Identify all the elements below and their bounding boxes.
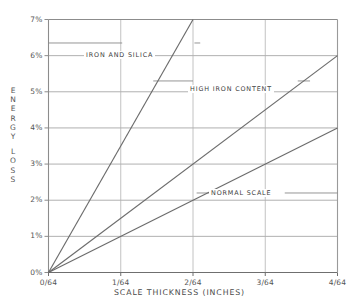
y-axis-tick-label: 2% <box>21 196 43 204</box>
x-axis-tick-label: 1/64 <box>101 279 141 287</box>
y-axis-tick-label: 4% <box>21 124 43 132</box>
series-label-normal-scale: NORMAL SCALE <box>209 189 273 197</box>
x-axis-tick-label: 2/64 <box>173 279 213 287</box>
y-axis-tick-label: 0% <box>21 269 43 277</box>
x-axis-tick-label: 0/64 <box>29 279 69 287</box>
plot-canvas <box>0 0 359 305</box>
x-axis-tick-label: 4/64 <box>318 279 358 287</box>
y-axis-tick-label: 6% <box>21 52 43 60</box>
y-axis-ticks <box>45 20 49 273</box>
x-axis-tick-label: 3/64 <box>245 279 285 287</box>
x-axis-title: SCALE THICKNESS (INCHES) <box>0 288 359 297</box>
chart-figure: E N E R G Y L O S S 0%1%2%3%4%5%6%7% 0/6… <box>0 0 359 305</box>
series-label-iron-and-silica: IRON AND SILICA <box>84 51 155 59</box>
y-axis-tick-label: 7% <box>21 16 43 24</box>
y-axis-tick-label: 5% <box>21 88 43 96</box>
series-label-high-iron-content: HIGH IRON CONTENT <box>188 85 274 93</box>
y-axis-tick-label: 3% <box>21 160 43 168</box>
y-axis-tick-label: 1% <box>21 232 43 240</box>
